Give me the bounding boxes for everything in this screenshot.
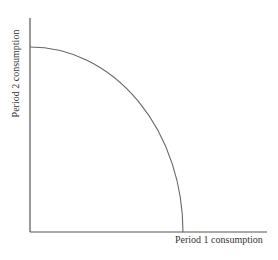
y-axis-label: Period 2 consumption — [10, 19, 21, 129]
frontier-curve — [30, 47, 183, 232]
chart-canvas — [0, 0, 278, 260]
x-axis-label: Period 1 consumption — [175, 234, 263, 245]
